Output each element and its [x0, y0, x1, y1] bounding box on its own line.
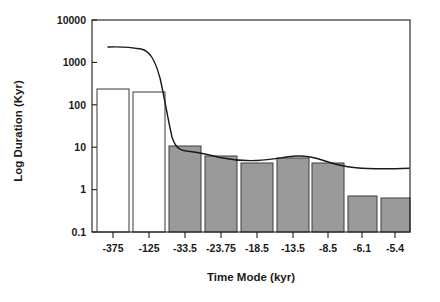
y-tick-label-0.1: 0.1 — [71, 226, 86, 238]
x-tick-label-125: -125 — [138, 242, 159, 254]
x-axis-title: Time Mode (kyr) — [207, 271, 295, 283]
y-tick-label-10000: 10000 — [57, 14, 86, 26]
x-tick-label-18.5: -18.5 — [245, 242, 269, 254]
y-tick-label-1: 1 — [80, 183, 86, 195]
x-tick-label-8.5: -8.5 — [319, 242, 337, 254]
bar-18.5 — [241, 163, 273, 232]
x-tick-label-23.75: -23.75 — [206, 242, 236, 254]
bar-8.5 — [312, 163, 344, 232]
x-tick-label-6.1: -6.1 — [353, 242, 371, 254]
y-tick-label-1000: 1000 — [63, 56, 87, 68]
log-duration-bar-chart: Log Duration (Kyr) 10000 1000 100 10 1 0… — [0, 0, 440, 302]
y-tick-label-10: 10 — [74, 141, 86, 153]
x-tick-label-375: -375 — [102, 242, 123, 254]
x-tick-label-13.5: -13.5 — [281, 242, 305, 254]
x-tick-label-5.4: -5.4 — [386, 242, 404, 254]
y-axis-title: Log Duration (Kyr) — [12, 80, 24, 182]
bar-33.5 — [169, 146, 201, 232]
x-tick-marks — [113, 232, 395, 238]
bar-6.1 — [348, 196, 377, 232]
x-tick-label-33.5: -33.5 — [173, 242, 197, 254]
bar-125 — [133, 92, 165, 232]
chart-figure: Log Duration (Kyr) 10000 1000 100 10 1 0… — [0, 0, 440, 302]
bar-23.75 — [205, 156, 237, 232]
bar-13.5 — [277, 158, 309, 232]
y-tick-marks — [92, 20, 97, 232]
bar-375 — [97, 89, 129, 232]
bar-5.4 — [381, 198, 410, 232]
y-tick-label-100: 100 — [68, 99, 86, 111]
